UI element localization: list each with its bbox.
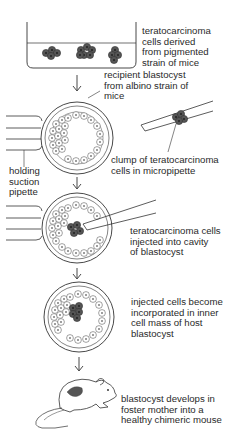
cell-clump-2: [76, 43, 95, 58]
label-holding-pipette: holding suction pipette: [9, 166, 40, 198]
arrow-down-icon: [75, 357, 83, 371]
blastocyst-incorporated: [44, 282, 114, 352]
blastocyst-injection: [42, 193, 112, 263]
label-micropipette-clump: clump of teratocarcinoma cells in microp…: [111, 155, 219, 176]
blastocyst-recipient: [41, 102, 113, 174]
culture-dish: [27, 22, 136, 68]
label-recipient: recipient blastocyst from albino strain …: [104, 70, 188, 102]
label-culture: teratocarcinoma cells derived from pigme…: [142, 26, 211, 68]
label-incorporation: injected cells become incorporated in in…: [131, 297, 223, 339]
cell-clump-3: [108, 46, 121, 63]
holding-pipette-2: [6, 206, 42, 240]
label-injection: teratocarcinoma cells injected into cavi…: [130, 226, 221, 258]
arrow-down-icon: [73, 268, 81, 279]
chimeric-mouse-illustration: [36, 378, 117, 428]
holding-pipette-1: [6, 116, 42, 167]
arrow-down-icon: [73, 75, 81, 91]
cell-clump-1: [42, 46, 60, 59]
micropipette: [141, 101, 213, 152]
arrow-down-icon: [73, 177, 81, 189]
label-chimera: blastocyst develops in foster mother int…: [121, 394, 222, 426]
